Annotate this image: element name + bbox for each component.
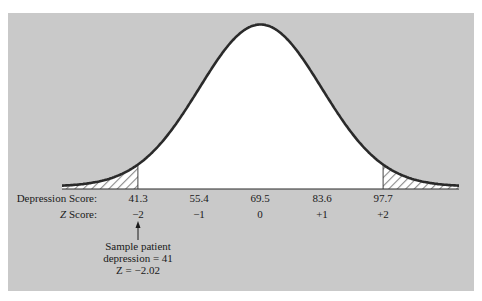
- x-row-label: Depression Score:: [17, 192, 97, 204]
- x-tick-label: 41.3: [128, 192, 147, 204]
- z-row-label: Z Score:: [60, 208, 97, 220]
- x-tick-label: 83.6: [312, 192, 331, 204]
- annotation-line-1: Sample patient: [103, 240, 173, 252]
- z-label-suffix: Score:: [66, 208, 97, 220]
- x-tick-label: 97.7: [373, 192, 392, 204]
- x-tick-label: 55.4: [189, 192, 208, 204]
- annotation-arrow-head: [136, 221, 141, 228]
- z-tick-label: −2: [132, 208, 144, 220]
- z-tick-label: +1: [316, 208, 328, 220]
- normal-curve-chart: [0, 0, 482, 301]
- sample-patient-annotation: Sample patient depression = 41 Z = −2.02: [103, 240, 173, 276]
- x-tick-label: 69.5: [250, 192, 269, 204]
- z-tick-label: 0: [257, 208, 263, 220]
- center-area: [138, 25, 383, 190]
- annotation-line-3: Z = −2.02: [103, 264, 173, 276]
- annotation-line-2: depression = 41: [103, 252, 173, 264]
- z-tick-label: −1: [193, 208, 205, 220]
- z-tick-label: +2: [377, 208, 389, 220]
